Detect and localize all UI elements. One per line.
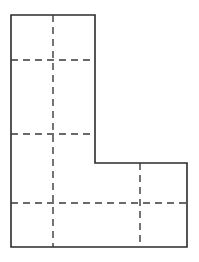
technical-drawing-canvas <box>0 0 199 262</box>
